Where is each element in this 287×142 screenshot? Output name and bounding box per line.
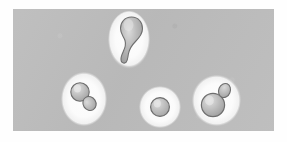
cell-group-right <box>186 72 248 131</box>
single-cell-middle <box>151 98 170 117</box>
cell-highlight-top <box>124 19 134 31</box>
cell-highlight-middle <box>154 100 161 108</box>
micrograph-panel <box>13 9 274 131</box>
cell-group-left <box>52 67 118 131</box>
figure-root: Budding yeast cells micrograph <box>0 0 287 142</box>
cell-highlight-left <box>74 85 81 93</box>
cell-highlight-right <box>205 96 214 106</box>
cell-group-middle <box>137 85 185 131</box>
